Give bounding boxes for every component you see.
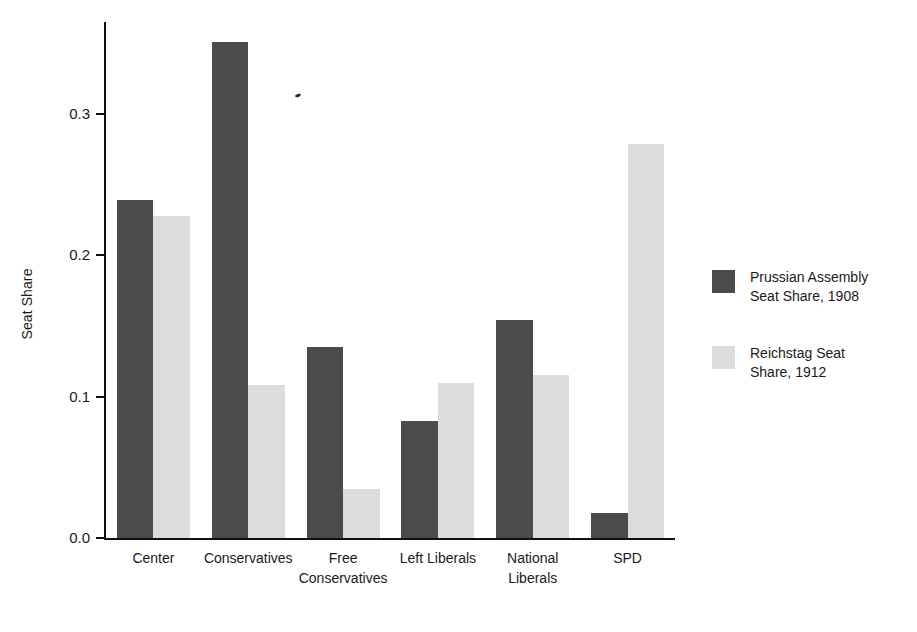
bar [117, 200, 154, 538]
bar [153, 216, 190, 538]
legend-swatch-icon [712, 270, 735, 293]
bar [343, 489, 380, 538]
bar [438, 383, 475, 539]
x-axis-category-label: SPD [580, 548, 675, 568]
x-axis-category-label: Free Conservatives [296, 548, 391, 588]
bar [628, 144, 665, 538]
chart-legend: Prussian Assembly Seat Share, 1908Reichs… [712, 268, 912, 420]
y-axis-tick-label: 0.2 [30, 247, 90, 262]
x-axis-category-label: National Liberals [485, 548, 580, 588]
bar [401, 421, 438, 538]
legend-swatch-icon [712, 346, 735, 369]
legend-label: Reichstag Seat Share, 1912 [750, 344, 912, 382]
bar-group [485, 22, 580, 538]
plot-area [106, 22, 675, 538]
legend-label: Prussian Assembly Seat Share, 1908 [750, 268, 912, 306]
x-axis-line [104, 538, 675, 540]
y-axis-tick-label: 0.1 [30, 389, 90, 404]
bar [496, 320, 533, 538]
x-axis-category-label: Center [106, 548, 201, 568]
bar-group [106, 22, 201, 538]
bar [212, 42, 249, 538]
legend-entry: Prussian Assembly Seat Share, 1908 [712, 268, 912, 308]
y-axis-tick-label: 0.0 [30, 530, 90, 545]
y-axis-tick-label: 0.3 [30, 106, 90, 121]
bar [591, 513, 628, 538]
legend-entry: Reichstag Seat Share, 1912 [712, 344, 912, 384]
bar-group [296, 22, 391, 538]
bar [307, 347, 344, 538]
bar-group [391, 22, 486, 538]
bar [533, 375, 570, 538]
bar-group [201, 22, 296, 538]
bar [248, 385, 285, 538]
x-axis-category-label: Conservatives [201, 548, 296, 568]
bar-chart-figure: Seat Share 0.00.10.20.3 CenterConservati… [0, 0, 917, 632]
x-axis-category-label: Left Liberals [391, 548, 486, 568]
bar-group [580, 22, 675, 538]
